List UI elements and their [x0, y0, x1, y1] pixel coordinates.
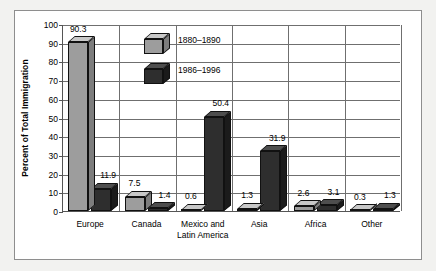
bar-front-face	[181, 209, 201, 211]
bar-value-label: 90.3	[64, 25, 92, 34]
bar-value-label: 50.4	[207, 99, 235, 108]
bar-value-label: 31.9	[263, 134, 291, 143]
plot-right-edge	[401, 25, 402, 211]
bar-front-face	[68, 42, 88, 211]
y-tick-label: 80	[14, 58, 58, 67]
y-tick-mark	[59, 44, 63, 45]
y-tick-mark	[59, 119, 63, 120]
dark-gray-cube-icon	[144, 63, 163, 78]
bar	[181, 210, 201, 212]
y-tick-mark	[59, 137, 63, 138]
category-divider	[288, 25, 289, 211]
bar-front-face	[204, 117, 224, 211]
y-tick-mark	[59, 25, 63, 26]
x-axis-label: Other	[327, 219, 417, 230]
y-tick-mark	[59, 100, 63, 101]
y-tick-mark	[59, 62, 63, 63]
y-tick-mark	[59, 193, 63, 194]
bar-value-label: 7.5	[121, 179, 149, 188]
light-gray-cube-icon	[144, 33, 163, 48]
y-tick-mark	[59, 175, 63, 176]
y-tick-mark	[59, 156, 63, 157]
legend-label: 1986–1996	[178, 65, 221, 75]
bar-side-face	[280, 145, 287, 211]
legend-label: 1880–1890	[178, 35, 221, 45]
legend-cube-front-face	[144, 39, 163, 54]
y-tick-label: 60	[14, 96, 58, 105]
bar	[125, 197, 145, 211]
bar	[350, 210, 370, 212]
y-tick-label: 90	[14, 39, 58, 48]
bar-front-face	[294, 206, 314, 211]
category-divider	[345, 25, 346, 211]
bar-value-label: 0.3	[346, 193, 374, 202]
bar	[294, 206, 314, 211]
bar-side-face	[224, 111, 231, 211]
bar-value-label: 1.3	[233, 191, 261, 200]
bar	[237, 209, 257, 211]
y-tick-label: 50	[14, 114, 58, 123]
bar-front-face	[350, 209, 370, 211]
y-tick-label: 20	[14, 170, 58, 179]
y-tick-mark	[59, 81, 63, 82]
bar-value-label: 1.4	[151, 191, 179, 200]
bar-value-label: 0.6	[177, 192, 205, 201]
y-tick-label: 100	[14, 21, 58, 30]
bar-front-face	[237, 209, 257, 211]
bar-value-label: 3.1	[320, 188, 348, 197]
bar-value-label: 1.3	[376, 191, 404, 200]
y-tick-label: 10	[14, 189, 58, 198]
y-tick-label: 30	[14, 152, 58, 161]
bar	[204, 117, 224, 211]
y-tick-label: 40	[14, 133, 58, 142]
legend-item: 1880–1890	[138, 28, 250, 54]
bar-front-face	[125, 197, 145, 211]
legend-item: 1986–1996	[138, 58, 250, 84]
bar-front-face	[148, 208, 168, 211]
bar	[68, 42, 88, 211]
y-tick-label: 70	[14, 77, 58, 86]
legend-cube-front-face	[144, 69, 163, 84]
chart-legend: 1880–18901986–1996	[138, 28, 250, 86]
bar-value-label: 11.9	[94, 171, 122, 180]
chart-figure: Percent of Total Immigration 01020304050…	[0, 0, 436, 271]
y-tick-mark	[59, 212, 63, 213]
y-tick-label: 0	[14, 208, 58, 217]
bar-value-label: 2.6	[290, 189, 318, 198]
bar	[373, 209, 393, 211]
bar	[148, 208, 168, 211]
bar-side-face	[88, 36, 95, 211]
bar-front-face	[373, 209, 393, 211]
